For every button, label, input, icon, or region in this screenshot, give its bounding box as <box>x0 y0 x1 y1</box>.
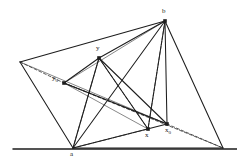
solid-segments-group <box>20 21 223 148</box>
dashed-segments-group <box>20 21 223 148</box>
segment-y0-x-light <box>64 83 148 129</box>
segment-outer-L-a <box>20 62 73 148</box>
segment-x0-b <box>165 21 167 124</box>
segment-y-x0 <box>99 58 167 124</box>
point-label-a: a <box>70 151 73 158</box>
point-marker-y <box>97 56 101 60</box>
segment-y-x <box>99 58 148 129</box>
point-label-text-a: a <box>70 150 73 158</box>
point-label-text-y: y <box>96 44 100 52</box>
geometry-figure: byy0axx0 <box>0 0 237 165</box>
point-label-subscript-x0: 0 <box>169 130 172 135</box>
segment-outer-b-R <box>165 21 223 148</box>
point-marker-b <box>163 19 167 23</box>
point-marker-y0 <box>62 81 66 85</box>
point-label-y: y <box>96 45 100 52</box>
segment-outer-L-b <box>20 21 165 62</box>
point-markers-group <box>62 19 169 131</box>
segment-y-b <box>99 21 165 58</box>
point-label-x0: x0 <box>165 127 171 135</box>
segment-a-y <box>73 58 99 148</box>
point-label-b: b <box>162 8 166 15</box>
point-label-y0: y0 <box>52 75 58 83</box>
light-segments-group <box>20 21 167 129</box>
point-label-text-x: x <box>145 131 149 139</box>
figure-canvas <box>0 0 237 165</box>
segment-y0-y <box>64 58 99 83</box>
point-label-subscript-y0: 0 <box>56 78 59 83</box>
point-label-text-b: b <box>162 7 166 15</box>
segment-x-b <box>148 21 165 129</box>
segment-a-b <box>73 21 165 148</box>
segment-a-x0 <box>73 124 167 148</box>
point-label-x: x <box>145 132 149 139</box>
